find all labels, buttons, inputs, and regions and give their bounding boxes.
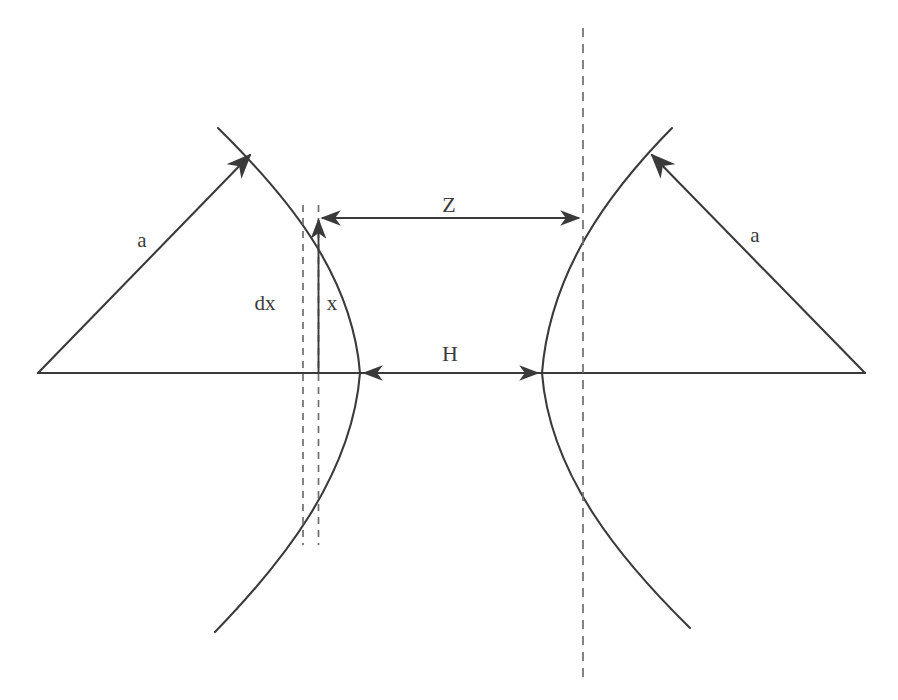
- left-arc-curve: [215, 128, 360, 632]
- figure-canvas: a a dx x Z H: [0, 0, 898, 700]
- right-radius-arrow: [652, 155, 865, 373]
- label-a-right: a: [750, 225, 759, 246]
- label-x: x: [327, 293, 338, 314]
- label-dx: dx: [255, 293, 276, 314]
- label-z: Z: [442, 194, 455, 216]
- label-h: H: [442, 343, 458, 365]
- label-a-left: a: [137, 230, 146, 251]
- right-arc-curve: [542, 128, 690, 628]
- left-radius-arrow: [38, 155, 250, 373]
